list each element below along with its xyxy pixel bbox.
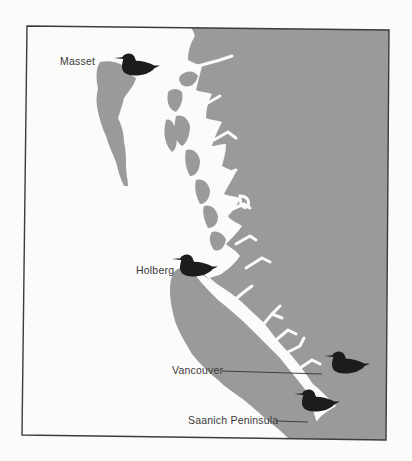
location-label-masset: Masset (60, 55, 95, 67)
haida-gwaii (97, 61, 137, 186)
map-canvas (0, 0, 412, 461)
location-label-holberg: Holberg (136, 264, 174, 276)
land-masses (97, 26, 390, 445)
map (0, 0, 412, 461)
location-label-saanich-peninsula: Saanich Peninsula (188, 414, 278, 426)
location-label-vancouver: Vancouver (172, 364, 223, 376)
